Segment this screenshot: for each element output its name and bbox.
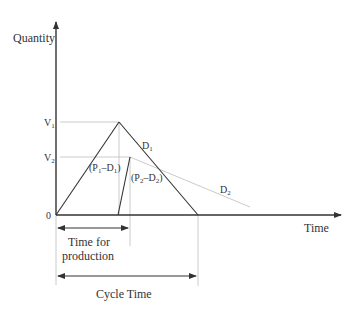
origin-label: 0 xyxy=(46,210,51,221)
inventory-cycle-diagram: Quantity Time 0 V1 V2 D1 D2 (P1–D1) (P2–… xyxy=(0,0,357,312)
main-lines xyxy=(56,122,198,215)
v1-label: V1 xyxy=(44,117,55,130)
v2-label: V2 xyxy=(44,152,55,165)
x-axis-label: Time xyxy=(304,221,329,235)
rate2-label: (P2–D2) xyxy=(131,172,162,185)
production-time-label-line2: production xyxy=(62,249,114,263)
production-time-label-line1: Time for xyxy=(68,235,110,249)
y-axis-label: Quantity xyxy=(13,31,55,45)
d1-depletion-line xyxy=(119,122,198,215)
cycle-time-label: Cycle Time xyxy=(96,287,152,301)
rate1-label: (P1–D1) xyxy=(89,162,120,175)
